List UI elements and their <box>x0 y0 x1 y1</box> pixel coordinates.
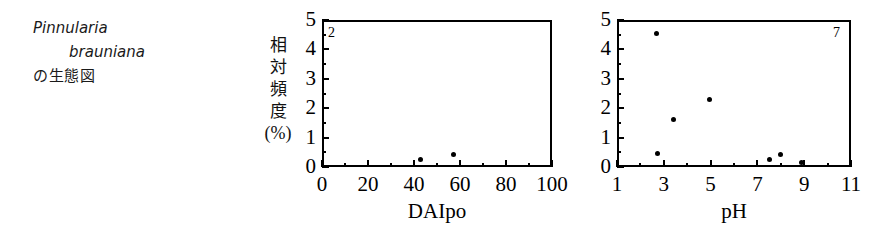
y-tick-minor <box>617 122 621 124</box>
x-tick-major <box>367 160 369 167</box>
y-tick-major <box>322 78 329 80</box>
y-axis-title-unit: (%) <box>258 122 298 144</box>
y-tick-label: 1 <box>294 127 316 148</box>
x-tick-label: 80 <box>486 174 526 195</box>
y-tick-minor <box>617 93 621 95</box>
data-point <box>767 157 772 162</box>
data-point <box>654 31 659 36</box>
x-tick-minor <box>827 163 829 167</box>
x-tick-label: 9 <box>784 174 824 195</box>
x-tick-minor <box>780 163 782 167</box>
y-tick-major <box>617 137 624 139</box>
y-tick-major <box>322 137 329 139</box>
y-tick-label: 5 <box>294 9 316 30</box>
y-tick-minor <box>322 93 326 95</box>
x-tick-major <box>551 160 553 167</box>
data-point <box>707 97 712 102</box>
figure-root: Pinnularia brauniana の生態図 相 対 頻 度 (%) 2 … <box>0 0 893 227</box>
x-tick-major <box>663 160 665 167</box>
y-axis-title: 相 対 頻 度 (%) <box>258 34 298 144</box>
x-tick-major <box>459 160 461 167</box>
x-tick-minor <box>639 163 641 167</box>
y-tick-minor <box>322 122 326 124</box>
plot-frame-daipo <box>322 20 552 167</box>
y-tick-major <box>322 166 329 168</box>
x-tick-major <box>850 160 852 167</box>
y-tick-major <box>322 107 329 109</box>
y-tick-minor <box>322 63 326 65</box>
y-tick-major <box>617 19 624 21</box>
y-tick-label: 2 <box>589 97 611 118</box>
x-tick-label: 40 <box>394 174 434 195</box>
y-tick-minor <box>617 34 621 36</box>
x-tick-major <box>616 160 618 167</box>
y-tick-label: 5 <box>589 9 611 30</box>
x-tick-label: 60 <box>440 174 480 195</box>
plot-frame-ph <box>617 20 851 167</box>
x-tick-label: 1 <box>597 174 637 195</box>
y-tick-minor <box>617 151 621 153</box>
x-tick-major <box>710 160 712 167</box>
y-tick-label: 4 <box>294 38 316 59</box>
y-axis-title-char-4: 度 <box>258 100 298 122</box>
x-tick-minor <box>528 163 530 167</box>
x-axis-title-daipo: DAIpo <box>322 200 552 222</box>
x-tick-major <box>756 160 758 167</box>
x-tick-label: 3 <box>644 174 684 195</box>
panel-number-label-daipo: 2 <box>328 26 335 40</box>
figure-caption: Pinnularia brauniana の生態図 <box>33 16 228 88</box>
y-tick-minor <box>322 151 326 153</box>
y-axis-title-char-3: 頻 <box>258 78 298 100</box>
x-tick-major <box>505 160 507 167</box>
y-tick-major <box>617 166 624 168</box>
y-tick-label: 4 <box>589 38 611 59</box>
x-tick-minor <box>733 163 735 167</box>
y-tick-minor <box>617 63 621 65</box>
panel-number-label-ph: 7 <box>833 26 840 40</box>
y-axis-title-char-2: 対 <box>258 56 298 78</box>
y-tick-major <box>322 19 329 21</box>
y-tick-major <box>617 48 624 50</box>
y-axis-title-char-1: 相 <box>258 34 298 56</box>
species-name-line-2: brauniana <box>33 40 228 64</box>
x-tick-label: 20 <box>348 174 388 195</box>
x-tick-label: 100 <box>532 174 572 195</box>
y-tick-label: 2 <box>294 97 316 118</box>
y-tick-label: 1 <box>589 127 611 148</box>
x-tick-label: 7 <box>737 174 777 195</box>
x-axis-title-ph: pH <box>617 200 851 222</box>
x-tick-minor <box>686 163 688 167</box>
x-tick-minor <box>344 163 346 167</box>
x-tick-major <box>413 160 415 167</box>
x-tick-minor <box>482 163 484 167</box>
y-tick-label: 3 <box>294 68 316 89</box>
y-tick-label: 3 <box>589 68 611 89</box>
y-tick-minor <box>322 34 326 36</box>
caption-japanese-text: の生態図 <box>33 64 228 88</box>
x-tick-label: 11 <box>831 174 871 195</box>
data-point <box>451 152 456 157</box>
x-tick-major <box>321 160 323 167</box>
y-tick-major <box>617 78 624 80</box>
y-tick-major <box>617 107 624 109</box>
y-tick-major <box>322 48 329 50</box>
x-tick-minor <box>436 163 438 167</box>
species-name-line-1: Pinnularia <box>33 16 228 40</box>
x-tick-label: 0 <box>302 174 342 195</box>
x-tick-minor <box>390 163 392 167</box>
x-tick-label: 5 <box>691 174 731 195</box>
